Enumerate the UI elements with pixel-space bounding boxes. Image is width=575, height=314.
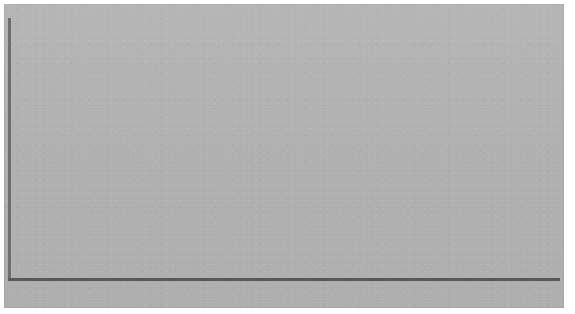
chart-root xyxy=(0,0,575,314)
category-labels-layer xyxy=(4,283,564,308)
bars-layer xyxy=(4,4,564,278)
chart-panel xyxy=(4,4,564,308)
x-axis-line xyxy=(8,278,560,281)
